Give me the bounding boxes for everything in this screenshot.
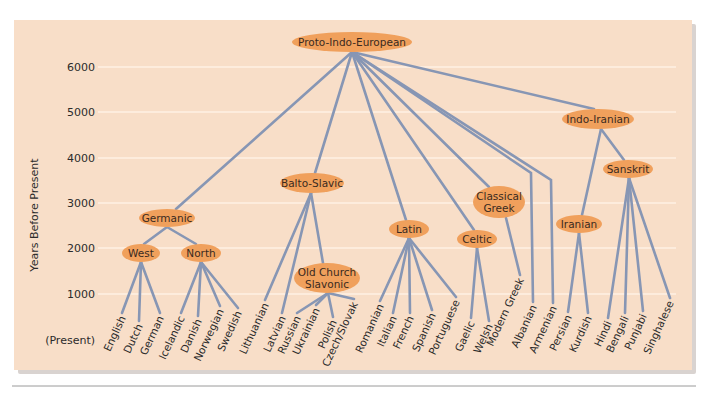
node-iranian: Iranian bbox=[556, 215, 602, 233]
y-tick-label: 5000 bbox=[67, 106, 95, 119]
node-germanic: Germanic bbox=[139, 209, 195, 227]
y-tick-label: 2000 bbox=[67, 242, 95, 255]
node-label: West bbox=[128, 247, 154, 259]
node-balto-slavic: Balto-Slavic bbox=[280, 173, 344, 193]
node-celtic: Celtic bbox=[457, 230, 497, 248]
node-label: Greek bbox=[483, 202, 515, 214]
node-west: West bbox=[122, 244, 160, 262]
node-sanskrit: Sanskrit bbox=[603, 160, 653, 178]
node-label: Iranian bbox=[561, 218, 598, 230]
node-label: Celtic bbox=[462, 233, 492, 245]
node-label: Proto-Indo-European bbox=[298, 36, 406, 48]
y-tick-label: 4000 bbox=[67, 152, 95, 165]
node-label: Balto-Slavic bbox=[281, 177, 343, 189]
node-label: Classical bbox=[476, 190, 522, 202]
node-label: Indo-Iranian bbox=[566, 113, 629, 125]
node-pie: Proto-Indo-European bbox=[292, 32, 412, 52]
y-tick-label: 6000 bbox=[67, 61, 95, 74]
node-latin: Latin bbox=[389, 220, 429, 238]
node-label: Sanskrit bbox=[607, 163, 650, 175]
node-label: Latin bbox=[396, 223, 422, 235]
language-family-tree-figure: 600050004000300020001000 Years Before Pr… bbox=[0, 0, 710, 394]
present-tick-label: (Present) bbox=[45, 334, 95, 347]
y-tick-label: 1000 bbox=[67, 288, 95, 301]
node-old-church-slavonic: Old ChurchSlavonic bbox=[294, 263, 360, 293]
leaf-edge bbox=[409, 238, 410, 313]
node-label: Germanic bbox=[142, 212, 193, 224]
node-classical-greek: ClassicalGreek bbox=[473, 186, 525, 218]
node-label: Old Church bbox=[298, 266, 356, 278]
y-tick-label: 3000 bbox=[67, 197, 95, 210]
node-label: Slavonic bbox=[305, 278, 349, 290]
y-axis-title: Years Before Present bbox=[28, 158, 41, 273]
node-indo-iranian: Indo-Iranian bbox=[562, 109, 634, 129]
node-north: North bbox=[181, 244, 221, 262]
node-label: North bbox=[186, 247, 215, 259]
